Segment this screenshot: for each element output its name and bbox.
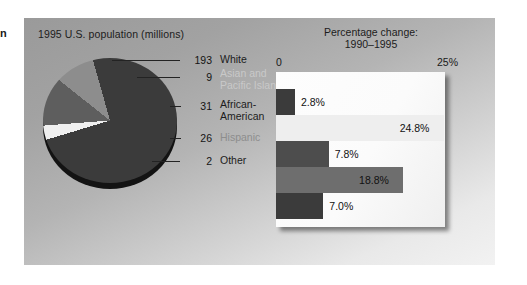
pie-chart-title: 1995 U.S. population (millions) [38,28,184,40]
bar-row: 7.0% [276,193,445,219]
pie-value-asian: 9 [182,71,212,83]
margin-cutoff-text: n [0,27,7,39]
bar-african-american [276,141,329,167]
bar-row: 7.8% [276,141,445,167]
leader-line-white [112,60,180,61]
figure-panel: 1995 U.S. population (millions) 193 9 31… [24,18,495,265]
bar-row: 24.8% [276,115,445,141]
pie-label-african-american: African- American [220,99,264,122]
pie-chart [36,48,196,198]
bar-value-label: 7.0% [329,200,353,212]
bar-row: 18.8% [276,167,445,193]
pie-value-other: 2 [182,155,212,167]
pie-label-white: White [220,54,247,66]
bar-axis-max-label: 25% [437,56,458,68]
bar-other [276,193,323,219]
bar-value-label: 7.8% [335,148,359,160]
pie-value-hispanic: 26 [182,132,212,144]
bar-row: 2.8% [276,89,445,115]
bar-value-label: 2.8% [301,96,325,108]
leader-line-hispanic [170,138,181,139]
bar-chart-title: Percentage change: 1990–1995 [266,26,476,50]
pie-label-other: Other [220,155,246,167]
leader-line-asian [137,77,180,78]
bar-chart-title-line1: Percentage change: [266,26,476,38]
bar-value-label: 18.8% [359,174,389,186]
pie-label-hispanic: Hispanic [220,132,260,144]
leader-line-african-american [170,106,181,107]
pie-value-white: 193 [182,54,212,66]
bar-value-label: 24.8% [400,122,430,134]
figure-root: n 1995 U.S. population (millions) 193 9 … [0,0,527,285]
bar-white [276,89,295,115]
bar-plot-area: 2.8%24.8%7.8%18.8%7.0% [276,72,445,227]
bar-axis-min-label: 0 [276,56,282,68]
bar-chart-title-line2: 1990–1995 [266,38,476,50]
pie-value-african-american: 31 [182,100,212,112]
leader-line-other [152,161,180,162]
